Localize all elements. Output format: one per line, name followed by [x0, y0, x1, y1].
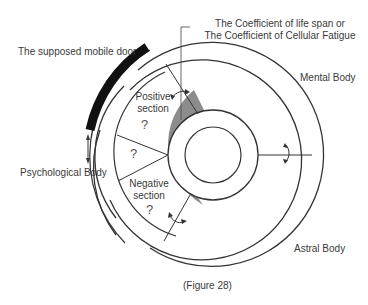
positive-section-label-line2: section [128, 103, 178, 115]
mobile-door-label: The supposed mobile door [18, 46, 136, 58]
sector-line-upper-left [117, 135, 168, 155]
positive-section-label-line1: Positive [128, 91, 178, 103]
coefficient-label-line2: The Coefficient of Cellular Fatigue [190, 30, 368, 42]
middle-circle [168, 110, 258, 200]
mental-body-label: Mental Body [300, 72, 356, 84]
figure-caption: (Figure 28) [183, 280, 232, 292]
negative-section-label-line1: Negative [124, 178, 174, 190]
unknown-mark-negative: ? [146, 202, 153, 217]
astral-body-label: Astral Body [294, 243, 345, 255]
mobile-door [90, 47, 147, 130]
psychological-body-label: Psychological Body [20, 167, 107, 179]
negative-section-label-line2: section [124, 190, 174, 202]
unknown-mark-positive: ? [141, 117, 148, 132]
outer-body-arc-lower [93, 130, 116, 235]
door-track-arc [90, 50, 150, 243]
coefficient-label-line1: The Coefficient of life span or [190, 18, 368, 30]
unknown-mark-middle: ? [130, 146, 137, 161]
